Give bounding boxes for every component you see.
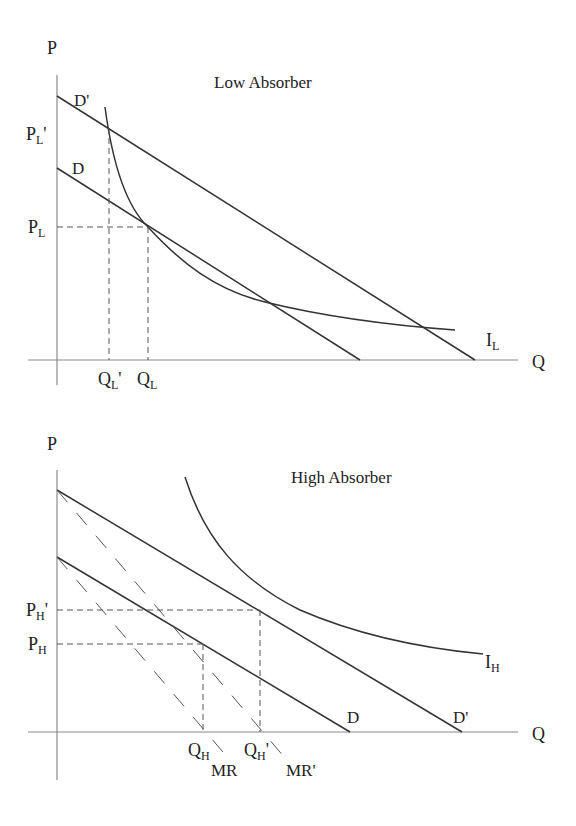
high-demand-shifted-label: D' [453, 708, 468, 727]
high-x-axis-label: Q [532, 724, 545, 744]
high-quantity-label-qh-prime: QH' [244, 740, 269, 763]
economics-diagram: P Q Low Absorber D' D IL PL' PL QL' QL P… [0, 0, 576, 826]
high-price-label-ph-prime: PH' [26, 600, 48, 623]
low-indifference-label: IL [486, 330, 499, 353]
high-y-axis-label: P [47, 434, 57, 454]
low-y-axis-label: P [47, 38, 57, 58]
high-marginal-revenue-curve [57, 557, 228, 758]
high-panel-title: High Absorber [291, 468, 392, 487]
high-price-label-ph: PH [28, 634, 47, 657]
high-indifference-curve [185, 477, 483, 654]
low-quantity-label-ql: QL [137, 369, 157, 392]
low-panel-title: Low Absorber [214, 73, 312, 92]
low-x-axis-label: Q [532, 352, 545, 372]
high-quantity-label-qh: QH [188, 740, 210, 763]
low-demand-shifted-label: D' [74, 91, 89, 110]
low-quantity-label-ql-prime: QL' [98, 369, 122, 392]
high-indifference-label: IH [485, 652, 500, 675]
panel-low-absorber: P Q Low Absorber D' D IL PL' PL QL' QL [26, 38, 545, 392]
low-price-label-pl-prime: PL' [26, 124, 47, 147]
low-demand-label: D [72, 159, 84, 178]
high-marginal-revenue-shifted-label: MR' [286, 761, 316, 780]
low-price-label-pl: PL [28, 217, 45, 240]
panel-high-absorber: P Q High Absorber D' D MR MR' IH PH' PH … [26, 434, 545, 780]
high-marginal-revenue-shifted-curve [57, 490, 285, 758]
low-demand-curve [57, 168, 360, 360]
low-indifference-curve [105, 107, 455, 330]
high-marginal-revenue-label: MR [211, 761, 238, 780]
low-demand-shifted-curve [57, 96, 475, 360]
high-demand-label: D [347, 708, 359, 727]
